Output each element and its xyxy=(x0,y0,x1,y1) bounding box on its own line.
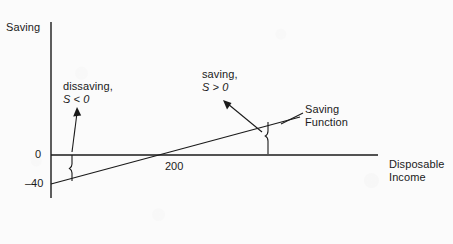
saving-function-leader-line xyxy=(281,113,303,124)
saving-function-figure: Saving 0 –40 200 Disposable Income dissa… xyxy=(0,0,453,244)
saving-arrow-shaft xyxy=(228,104,262,132)
saving-arrow-head xyxy=(223,100,232,110)
dissaving-brace xyxy=(70,155,73,181)
dissaving-label-line1: dissaving, xyxy=(63,80,113,93)
saving-label-line2: S > 0 xyxy=(202,81,229,94)
y-tick-negative-forty: –40 xyxy=(25,177,43,189)
saving-function-label-line1: Saving xyxy=(305,103,339,116)
y-axis-title: Saving xyxy=(6,21,40,34)
saving-function-label-line2: Function xyxy=(305,116,348,129)
dissaving-label-line2: S < 0 xyxy=(63,93,90,106)
dissaving-arrow-shaft xyxy=(72,113,77,152)
y-tick-zero: 0 xyxy=(35,148,41,160)
saving-function-line xyxy=(51,117,300,184)
x-axis-title-line2: Income xyxy=(389,171,426,184)
dissaving-arrow-head xyxy=(73,107,81,117)
x-axis-title-line1: Disposable xyxy=(389,158,444,171)
x-tick-200: 200 xyxy=(165,160,183,172)
figure-canvas xyxy=(0,0,453,244)
saving-label-line1: saving, xyxy=(202,68,238,81)
